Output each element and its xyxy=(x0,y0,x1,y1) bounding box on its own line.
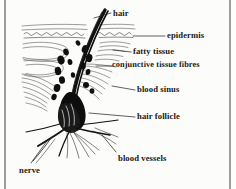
label-hair: hair xyxy=(113,9,129,18)
label-nerve: nerve xyxy=(19,166,40,175)
leader-blood-sinus xyxy=(112,86,135,90)
nerve-fibre xyxy=(33,137,55,163)
epidermis-lines xyxy=(22,24,135,30)
label-epidermis: epidermis xyxy=(167,31,204,40)
label-conjunctive-tissue-fibres: conjunctive tissue fibres xyxy=(112,61,200,69)
label-fatty-tissue: fatty tissue xyxy=(133,47,174,56)
label-blood-sinus: blood sinus xyxy=(137,85,179,94)
figure-page: hair epidermis fatty tissue conjunctive … xyxy=(0,0,236,189)
conjunctive-tissue-fibres xyxy=(80,64,116,99)
leader-fatty xyxy=(113,50,131,52)
leader-blood-vessels xyxy=(102,135,116,152)
conjunctive-tissue-fibres-left xyxy=(22,74,56,111)
leader-hair-follicle xyxy=(89,113,135,117)
epidermis-wave xyxy=(24,33,133,39)
label-blood-vessels: blood vessels xyxy=(118,154,166,163)
label-hair-follicle: hair follicle xyxy=(137,112,180,121)
hair-follicle-bulb xyxy=(58,92,86,133)
